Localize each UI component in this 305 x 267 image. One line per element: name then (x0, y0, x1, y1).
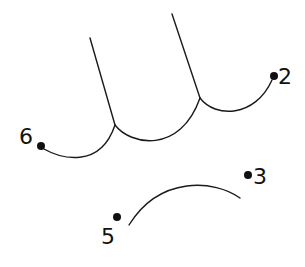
lower-arc (129, 185, 240, 225)
left-scallop-arc (44, 125, 115, 158)
label-2: 2 (278, 64, 292, 89)
middle-scallop-arc (115, 98, 200, 141)
left-stem-line (90, 38, 115, 125)
right-stem-line (172, 14, 200, 98)
label-5: 5 (101, 224, 115, 249)
dot-2 (270, 72, 278, 80)
diagram-canvas: 6 2 3 5 (0, 0, 305, 267)
label-6: 6 (19, 124, 33, 149)
dot-6 (37, 142, 45, 150)
right-scallop-arc (200, 80, 272, 111)
dot-5 (113, 213, 121, 221)
label-3: 3 (253, 164, 267, 189)
dot-3 (244, 171, 252, 179)
